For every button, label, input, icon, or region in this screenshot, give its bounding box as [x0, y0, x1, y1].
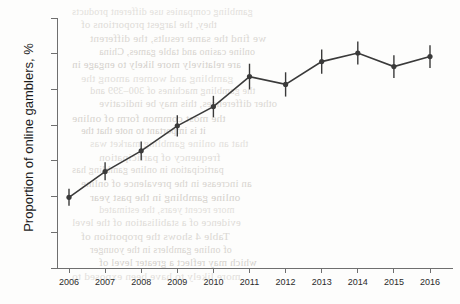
- data-point-2012: [283, 82, 288, 87]
- data-point-2009: [175, 123, 180, 128]
- data-point-2006: [66, 195, 71, 200]
- chart-plot-area: 05101520253035 2006200720082009201020112…: [0, 0, 460, 304]
- data-point-2011: [247, 74, 252, 79]
- data-series-layer: [0, 0, 460, 304]
- data-point-2015: [391, 64, 396, 69]
- data-point-2013: [319, 59, 324, 64]
- data-point-2014: [355, 50, 360, 55]
- data-point-2008: [139, 148, 144, 153]
- data-point-2010: [211, 104, 216, 109]
- chart-page: gambling companies use different product…: [0, 0, 460, 304]
- data-point-2016: [427, 54, 432, 59]
- data-point-2007: [103, 169, 108, 174]
